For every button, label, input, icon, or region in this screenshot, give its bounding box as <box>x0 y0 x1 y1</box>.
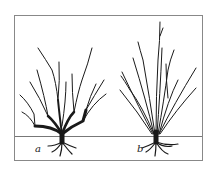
shrub-b <box>120 22 196 156</box>
shrub-a <box>20 48 106 156</box>
panel-label-a: a <box>35 144 41 154</box>
panel-label-b: b <box>137 144 143 154</box>
shrub-comparison-figure <box>0 0 215 170</box>
